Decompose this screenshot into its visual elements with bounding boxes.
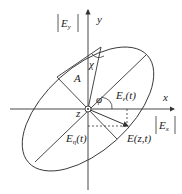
phi-label: φ bbox=[96, 93, 102, 105]
polarization-ellipse-diagram: Ey y Ex x z χ A φ Eε(t) Eη(t) E(z,t) bbox=[0, 0, 182, 194]
chi-label: χ bbox=[88, 58, 95, 70]
y-axis-label: y bbox=[96, 13, 102, 25]
field-vector bbox=[88, 109, 128, 126]
x-axis-label: x bbox=[162, 91, 168, 103]
ey-magnitude-label: Ey bbox=[60, 17, 72, 31]
e-eta-label: Eη(t) bbox=[65, 132, 87, 146]
phi-arc bbox=[101, 97, 112, 109]
z-axis-label: z bbox=[75, 107, 81, 119]
field-label: E(z,t) bbox=[126, 132, 151, 145]
origin-dot bbox=[87, 108, 89, 110]
A-label: A bbox=[73, 72, 81, 84]
e-epsilon-label: Eε(t) bbox=[115, 89, 136, 103]
ex-magnitude-label: Ex bbox=[158, 119, 170, 133]
